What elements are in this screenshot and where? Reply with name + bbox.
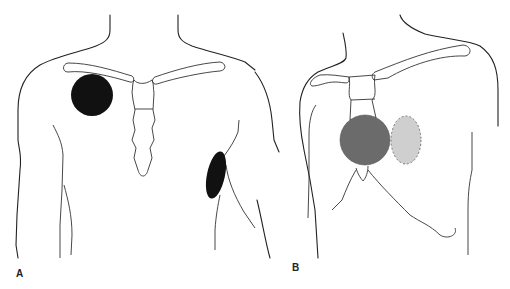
left-arm-inner-line: [53, 125, 63, 258]
panel-a-label: A: [16, 268, 23, 279]
left-costal-margin-b: [332, 170, 356, 210]
right-flank-line-2: [215, 195, 220, 250]
left-arm-inner-line-2: [64, 185, 72, 255]
right-clavicle: [153, 62, 225, 84]
left-shoulder-fragment: [255, 72, 279, 152]
sternum: [132, 80, 155, 176]
right-pectoral-marker: [71, 74, 113, 116]
panel-a-torso: [16, 15, 255, 258]
panel-b-torso: [255, 15, 498, 258]
sternal-marker: [340, 115, 390, 165]
left-flank-fragment: [257, 200, 270, 258]
neck-left-outline-b: [300, 33, 347, 258]
right-flank-line: [226, 165, 255, 228]
left-axillary-marker: [202, 150, 230, 201]
neck-right-outline-b: [400, 15, 498, 126]
sternum-b: [349, 75, 376, 120]
parasternal-marker: [391, 116, 421, 164]
left-inner-line-b: [308, 105, 316, 218]
right-flank-line-b: [468, 132, 472, 255]
xiphoid-b: [356, 166, 368, 181]
left-clavicle-b: [310, 75, 349, 86]
right-costal-margin-b: [368, 170, 456, 237]
panel-b-label: B: [292, 262, 299, 273]
anatomy-diagram: [0, 0, 510, 289]
right-clavicle-b: [372, 45, 470, 80]
neck-right-outline: [178, 15, 255, 70]
neck-left-outline: [16, 15, 110, 258]
sternal-angle-b: [351, 99, 375, 100]
